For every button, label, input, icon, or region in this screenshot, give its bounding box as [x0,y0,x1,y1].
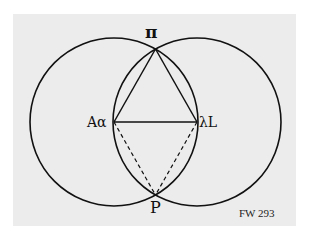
label-pi: π [145,24,157,41]
figure-caption: FW 293 [239,208,275,219]
segment-left-top [114,49,156,122]
label-lambda-l: λL [199,115,217,129]
segment-top-right [156,49,198,122]
label-a-alpha: Aα [87,115,107,129]
dashed-right-bottom [156,122,198,195]
dashed-left-bottom [114,122,156,195]
label-p: P [150,200,161,216]
